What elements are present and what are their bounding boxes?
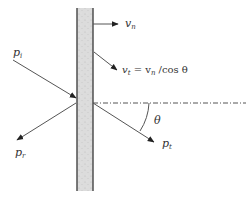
trace-velocity-arrow (94, 52, 117, 70)
reflected-wave-arrow (17, 103, 76, 140)
incident-label: pi (13, 46, 22, 60)
wall (77, 8, 93, 191)
transmitted-label: pt (162, 137, 172, 151)
incident-wave-arrow (13, 60, 76, 98)
wave-diagram: pi pr pt vn vt = vn /cos θ θ (0, 0, 246, 199)
angle-arc (140, 103, 149, 131)
angle-label: θ (154, 114, 161, 127)
reflected-label: pr (15, 146, 26, 160)
trace-velocity-equation: vt = vn /cos θ (122, 64, 188, 77)
normal-velocity-label: vn (125, 17, 136, 31)
